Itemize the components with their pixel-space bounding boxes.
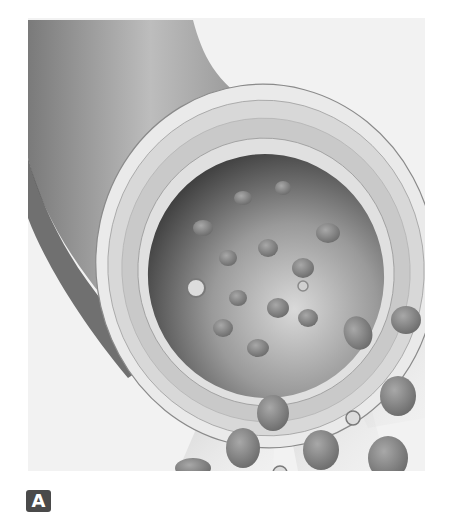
panel-label: A: [26, 490, 51, 512]
figure-illustration: [28, 18, 425, 471]
blood-vessel-illustration: [28, 18, 425, 471]
